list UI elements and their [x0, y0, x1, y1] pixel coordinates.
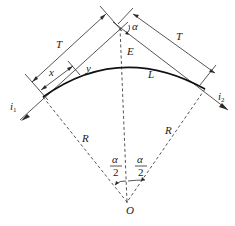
- svg-text:α: α: [137, 153, 143, 165]
- label-alpha: α: [132, 20, 138, 32]
- radius-left-line: [43, 97, 127, 202]
- label-R-left: R: [81, 132, 89, 144]
- dim-ext-right-start: [118, 8, 133, 24]
- svg-text:2: 2: [138, 166, 144, 178]
- label-center-O: O: [126, 204, 134, 216]
- label-y: y: [85, 62, 91, 74]
- curve-arc: [43, 67, 205, 97]
- dim-arrow-icon: [115, 181, 119, 185]
- dim-ext-left-end: [100, 6, 122, 31]
- label-E: E: [126, 45, 134, 57]
- circular-curve-diagram: T x y α E T L R R O i1 i2 α 2 α 2: [0, 0, 235, 226]
- half-angle-right-fraction: α 2: [135, 153, 147, 178]
- center-point: [126, 201, 128, 203]
- label-T-right: T: [176, 30, 183, 42]
- half-angle-left-fraction: α 2: [110, 153, 122, 178]
- label-x: x: [48, 66, 54, 78]
- radius-right-line: [127, 89, 205, 202]
- incoming-tangent-line: [20, 22, 128, 120]
- label-L: L: [147, 68, 154, 80]
- label-i2: i2: [218, 90, 225, 104]
- svg-text:α: α: [112, 153, 118, 165]
- label-R-right: R: [164, 124, 172, 136]
- outgoing-tangent-line: [113, 22, 228, 110]
- label-T-left: T: [56, 38, 63, 50]
- label-i1: i1: [10, 100, 17, 114]
- bisector-line: [120, 28, 127, 202]
- dim-T-right: [133, 14, 215, 73]
- svg-text:2: 2: [113, 166, 119, 178]
